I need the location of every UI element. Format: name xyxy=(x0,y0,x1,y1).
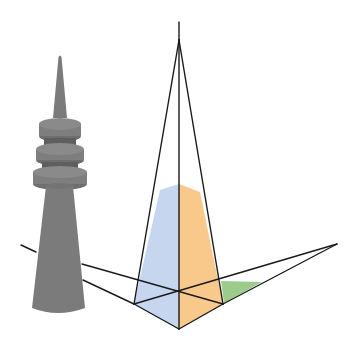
ground-triangle xyxy=(221,281,262,303)
tower xyxy=(32,56,87,314)
vanishing-line-right-lower xyxy=(223,244,337,304)
tower-shaft xyxy=(32,186,85,313)
tower-disc-bottom xyxy=(33,166,87,178)
perspective-diagram xyxy=(0,0,355,344)
vanishing-line-left-lower xyxy=(83,280,134,304)
vanishing-line-left-stub xyxy=(21,245,36,252)
tower-disc-top xyxy=(39,118,81,130)
tower-spire xyxy=(53,56,67,119)
tower-disc-middle xyxy=(36,143,84,155)
tower-shaft-top xyxy=(46,183,73,189)
diagram-canvas xyxy=(0,0,355,344)
